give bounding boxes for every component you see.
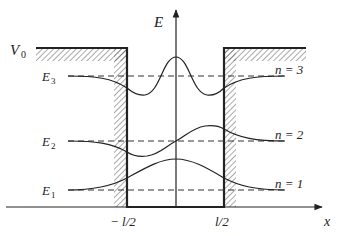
potential-outline bbox=[36, 48, 306, 207]
potential-well-diagram: E x − l/2 l/2 V 0 E 3 E 2 E 1 n = 3 n = … bbox=[0, 0, 341, 236]
e1-label: E bbox=[41, 183, 50, 198]
n2-label: n = 2 bbox=[275, 127, 304, 142]
v0-subscript: 0 bbox=[21, 49, 26, 60]
tick-pos-half-l: l/2 bbox=[215, 214, 229, 229]
e3-label: E bbox=[41, 69, 50, 84]
x-axis-label: x bbox=[323, 214, 331, 229]
v0-label: V bbox=[10, 42, 21, 58]
n3-label: n = 3 bbox=[275, 62, 304, 77]
e3-subscript: 3 bbox=[51, 76, 56, 86]
e-axis-label: E bbox=[153, 14, 163, 30]
e1-subscript: 1 bbox=[51, 190, 56, 200]
e2-label: E bbox=[41, 134, 50, 149]
e2-subscript: 2 bbox=[51, 141, 56, 151]
n1-label: n = 1 bbox=[275, 176, 303, 191]
tick-neg-half-l: − l/2 bbox=[110, 214, 136, 229]
